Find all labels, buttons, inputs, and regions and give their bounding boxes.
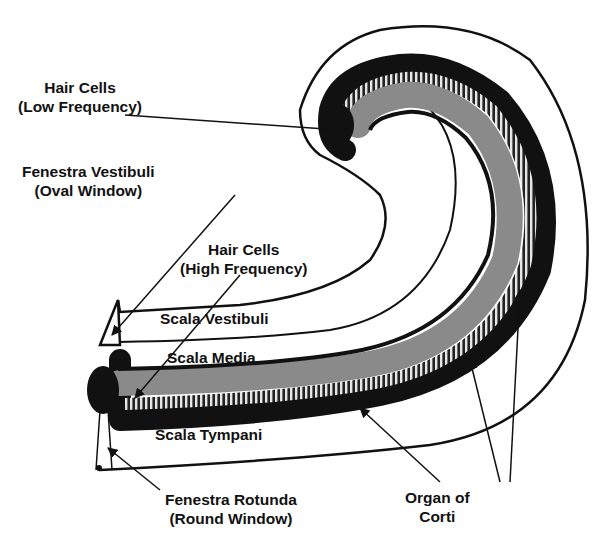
label-line: Hair Cells (180, 240, 307, 259)
leader-hair-cells-low (125, 115, 340, 130)
label-fenestra-rotunda: Fenestra Rotunda (Round Window) (165, 490, 297, 528)
label-line: Hair Cells (18, 78, 142, 97)
label-scala-tympani: Scala Tympani (155, 425, 262, 444)
label-line: Organ of (405, 488, 470, 507)
label-fenestra-vestibuli: Fenestra Vestibuli (Oval Window) (22, 162, 155, 200)
label-line: Fenestra Vestibuli (22, 162, 155, 181)
leader-organ-corti-2 (470, 360, 500, 482)
label-scala-vestibuli: Scala Vestibuli (160, 309, 269, 328)
label-hair-cells-low: Hair Cells (Low Frequency) (18, 78, 142, 116)
label-line: (Low Frequency) (18, 97, 142, 116)
cochlea-base (87, 366, 119, 414)
label-line: (Oval Window) (22, 181, 155, 200)
cochlea-apex (326, 105, 354, 145)
label-line: Corti (405, 507, 470, 526)
label-line: (Round Window) (165, 509, 297, 528)
label-scala-media: Scala Media (167, 348, 256, 367)
oval-window (100, 300, 120, 345)
round-window-dot (96, 465, 102, 471)
label-line: (High Frequency) (180, 259, 307, 278)
label-hair-cells-high: Hair Cells (High Frequency) (180, 240, 307, 278)
label-line: Fenestra Rotunda (165, 490, 297, 509)
label-organ-of-corti: Organ of Corti (405, 488, 470, 526)
